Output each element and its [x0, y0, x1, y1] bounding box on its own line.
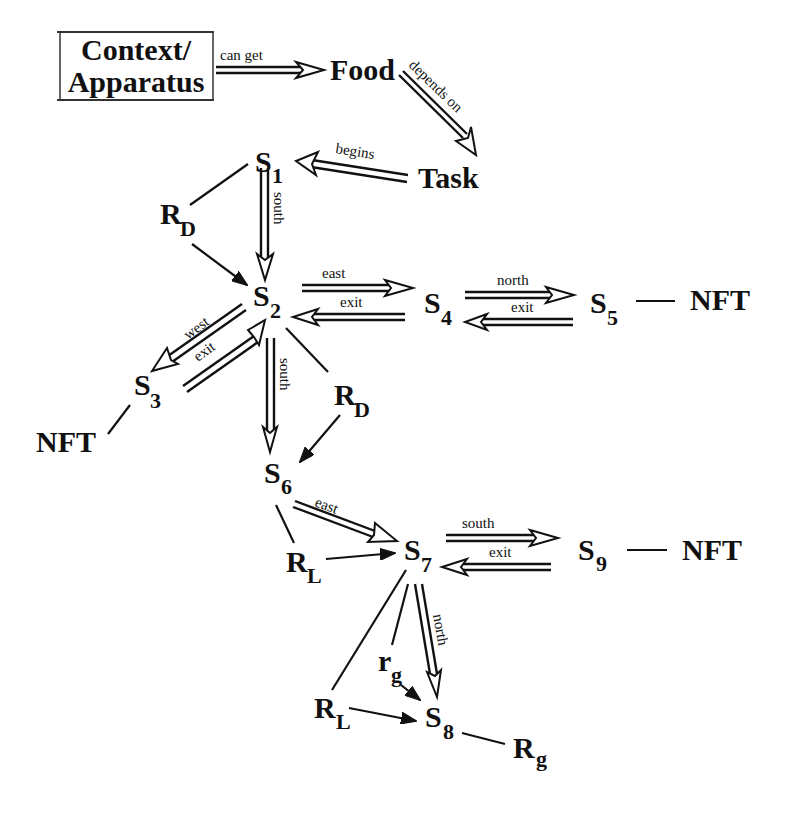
- edge-label-begins: begins: [335, 140, 376, 162]
- arrow-rd-s2: [192, 244, 247, 285]
- node-nft-s3: NFT: [36, 425, 96, 458]
- svg-text:2: 2: [270, 298, 281, 323]
- context-label: Context/: [81, 33, 192, 66]
- edge-s2-s6: south: [263, 338, 293, 452]
- svg-text:L: L: [336, 709, 351, 734]
- edge-label-can-get: can get: [220, 47, 264, 63]
- node-s3: S 3: [134, 368, 161, 413]
- edge-food-task: depends on: [399, 57, 476, 155]
- svg-text:D: D: [354, 397, 370, 422]
- node-s7: S 7: [404, 533, 432, 577]
- svg-text:5: 5: [607, 305, 618, 330]
- svg-text:S: S: [590, 286, 607, 319]
- edge-s7-s9: south: [446, 515, 558, 546]
- node-s5: S 5: [590, 286, 618, 330]
- edge-label-south-1: south: [271, 192, 287, 225]
- node-nft-s5: NFT: [690, 283, 750, 316]
- edge-label-exit-3: exit: [190, 338, 218, 365]
- edge-s5-s4: exit: [465, 299, 573, 330]
- svg-text:7: 7: [421, 552, 432, 577]
- node-s2: S 2: [253, 279, 281, 323]
- edge-label-south-3: south: [462, 515, 495, 531]
- node-rl-lower: R L: [314, 691, 351, 734]
- edge-s6-s7: east: [293, 494, 397, 542]
- edge-label-exit-4: exit: [489, 544, 512, 560]
- svg-text:R: R: [286, 545, 308, 578]
- arrow-rl-s8: [349, 708, 416, 721]
- svg-text:S: S: [578, 533, 595, 566]
- node-task: Task: [418, 161, 479, 194]
- node-s9: S 9: [578, 533, 607, 576]
- link-s8-rg: [462, 733, 505, 744]
- edge-s9-s7: exit: [442, 544, 551, 575]
- link-s7-rg: [392, 584, 408, 645]
- edge-context-food: can get: [216, 47, 324, 78]
- svg-text:g: g: [536, 746, 547, 771]
- link-s6-rl: [276, 505, 294, 543]
- svg-text:D: D: [180, 216, 196, 241]
- arrow-rd-s6: [300, 415, 340, 462]
- svg-text:R: R: [314, 691, 336, 724]
- svg-text:g: g: [391, 662, 402, 687]
- edge-label-exit-1: exit: [340, 294, 363, 310]
- svg-text:S: S: [134, 368, 151, 401]
- node-s4: S 4: [424, 286, 452, 330]
- link-s1-rd: [190, 164, 248, 205]
- node-s8: S 8: [425, 700, 454, 744]
- context-apparatus-box: Context/ Apparatus: [57, 32, 214, 100]
- svg-text:3: 3: [150, 388, 161, 413]
- svg-text:6: 6: [281, 474, 292, 499]
- edge-s2-s4: east: [302, 265, 413, 296]
- svg-text:R: R: [334, 378, 356, 411]
- state-transition-diagram: Context/ Apparatus Food Task can get dep…: [0, 0, 786, 814]
- node-rl-upper: R L: [286, 545, 322, 588]
- svg-text:9: 9: [596, 551, 607, 576]
- svg-text:r: r: [378, 644, 391, 677]
- edge-s4-s2: exit: [293, 294, 405, 325]
- svg-text:S: S: [404, 533, 421, 566]
- svg-text:4: 4: [441, 305, 452, 330]
- edge-task-s1: begins: [296, 140, 408, 182]
- node-rg-big: R g: [513, 731, 547, 771]
- svg-text:8: 8: [443, 719, 454, 744]
- node-nft-s9: NFT: [682, 533, 742, 566]
- edge-label-north-2: north: [430, 613, 451, 647]
- svg-text:S: S: [264, 456, 281, 489]
- svg-text:R: R: [160, 197, 182, 230]
- edge-label-north-1: north: [497, 272, 529, 288]
- edge-label-east-2: east: [313, 494, 341, 517]
- svg-text:S: S: [425, 700, 442, 733]
- edge-label-exit-2: exit: [511, 299, 534, 315]
- svg-text:L: L: [307, 563, 322, 588]
- svg-text:S: S: [424, 286, 441, 319]
- edge-label-depends-on: depends on: [406, 57, 466, 116]
- apparatus-label: Apparatus: [68, 65, 205, 98]
- node-rg-small: r g: [378, 644, 402, 687]
- edge-s7-s8: north: [415, 584, 451, 697]
- svg-text:S: S: [253, 279, 270, 312]
- svg-text:1: 1: [272, 163, 283, 188]
- edge-label-east-1: east: [322, 265, 346, 281]
- svg-text:R: R: [513, 731, 535, 764]
- edge-label-south-2: south: [277, 358, 293, 391]
- arrow-rg-s8: [401, 685, 420, 700]
- node-s6: S 6: [264, 456, 292, 499]
- node-food: Food: [330, 53, 395, 86]
- arrow-rl-s7: [326, 553, 395, 559]
- link-s3-nft: [108, 405, 130, 434]
